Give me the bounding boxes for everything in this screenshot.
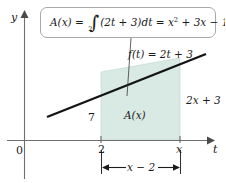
formula-integrand: (2t + 3): [100, 16, 141, 28]
t-axis-label: t: [213, 144, 217, 155]
left-height-label: 7: [88, 112, 95, 123]
integral-symbol-group: ∫x2: [87, 18, 100, 29]
formula-expression: A(x) = ∫x2(2t + 3)dt = x2 + 3x − 10: [50, 16, 225, 29]
base-width-label: x − 2: [127, 162, 155, 173]
shaded-area-region: [101, 58, 180, 140]
y-axis-arrowhead: [21, 10, 29, 18]
formula-equals-2: =: [156, 16, 165, 28]
integral-upper-limit: x: [95, 12, 99, 20]
tick-label-x: x: [176, 144, 182, 155]
tick-label-two: 2: [98, 144, 105, 155]
area-region-label: A(x): [124, 110, 146, 121]
formula-differential: dt: [141, 16, 152, 28]
function-label: f(t) = 2t + 3: [128, 49, 193, 60]
area-function-figure: A(x) = ∫x2(2t + 3)dt = x2 + 3x − 10 y t …: [0, 0, 225, 183]
integral-lower-limit: 2: [88, 25, 92, 33]
formula-callout-box: A(x) = ∫x2(2t + 3)dt = x2 + 3x − 10: [40, 7, 216, 38]
origin-label: 0: [16, 145, 23, 156]
formula-equals: =: [75, 16, 84, 28]
formula-lhs: A(x): [50, 16, 72, 28]
y-axis-label: y: [11, 12, 17, 23]
formula-rhs-rest: + 3x − 10: [182, 16, 226, 28]
dimension-arrowhead-right: [173, 164, 180, 170]
dimension-arrowhead-left: [102, 164, 109, 170]
right-height-label: 2x + 3: [186, 95, 221, 106]
